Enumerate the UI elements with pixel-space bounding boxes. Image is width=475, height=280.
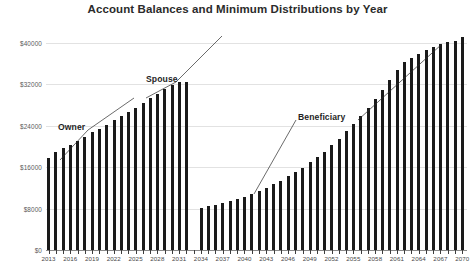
x-tick — [317, 250, 318, 254]
x-tick — [92, 250, 93, 254]
bar — [381, 90, 384, 250]
bar — [127, 112, 130, 250]
x-tick — [237, 250, 238, 254]
x-tick-label: 2061 — [390, 255, 404, 262]
x-tick — [150, 250, 151, 254]
x-tick — [85, 250, 86, 254]
bar — [410, 58, 413, 250]
x-tick-label: 2022 — [107, 255, 121, 262]
bar — [432, 47, 435, 250]
bar — [47, 158, 50, 250]
bar — [359, 116, 362, 250]
x-axis: 2013201620192022202520282031203420372040… — [46, 250, 467, 278]
bar — [374, 99, 377, 250]
x-tick-label: 2031 — [172, 255, 186, 262]
x-tick — [259, 250, 260, 254]
x-tick-label: 2058 — [368, 255, 382, 262]
bar — [54, 152, 57, 250]
bar — [323, 152, 326, 250]
bar — [309, 162, 312, 250]
x-tick — [78, 250, 79, 254]
plot-area: OwnerSpouseBeneficiary — [46, 22, 467, 250]
x-tick — [136, 250, 137, 254]
y-tick-label: $32000 — [20, 81, 42, 88]
x-tick — [339, 250, 340, 254]
bar — [105, 125, 108, 250]
x-tick — [107, 250, 108, 254]
y-tick-label: $8000 — [24, 205, 42, 212]
bar — [243, 197, 246, 250]
x-tick — [215, 250, 216, 254]
x-tick — [455, 250, 456, 254]
x-tick — [49, 250, 50, 254]
x-tick — [252, 250, 253, 254]
x-tick — [324, 250, 325, 254]
chart-title: Account Balances and Minimum Distributio… — [0, 3, 475, 15]
bar — [250, 194, 253, 250]
chart-container: Account Balances and Minimum Distributio… — [0, 0, 475, 280]
bar — [461, 37, 464, 250]
annotation-owner: Owner — [58, 122, 85, 132]
y-tick-label: $0 — [35, 247, 42, 254]
bar — [120, 116, 123, 250]
bar — [301, 168, 304, 250]
bar — [446, 42, 449, 250]
x-tick — [353, 250, 354, 254]
x-tick — [201, 250, 202, 254]
leader-line — [358, 44, 442, 120]
bar — [338, 139, 341, 250]
bar — [62, 148, 65, 250]
bar — [294, 172, 297, 250]
bar — [83, 137, 86, 250]
x-tick-label: 2037 — [216, 255, 230, 262]
x-tick — [303, 250, 304, 254]
x-tick-label: 2034 — [194, 255, 208, 262]
x-tick — [295, 250, 296, 254]
x-tick-label: 2040 — [237, 255, 251, 262]
x-tick — [165, 250, 166, 254]
bar — [265, 188, 268, 250]
x-tick-label: 2049 — [303, 255, 317, 262]
x-tick — [440, 250, 441, 254]
bar — [214, 205, 217, 250]
x-tick — [194, 250, 195, 254]
x-tick — [390, 250, 391, 254]
x-tick — [179, 250, 180, 254]
bar — [330, 145, 333, 250]
x-tick — [375, 250, 376, 254]
x-tick — [157, 250, 158, 254]
bar — [149, 98, 152, 250]
bar — [171, 85, 174, 250]
bar — [272, 184, 275, 250]
x-tick-label: 2064 — [412, 255, 426, 262]
x-tick — [70, 250, 71, 254]
bar — [221, 203, 224, 250]
x-tick-label: 2070 — [455, 255, 469, 262]
gridline — [46, 43, 467, 44]
bar — [134, 108, 137, 251]
annotation-spouse: Spouse — [146, 74, 178, 84]
bar — [200, 208, 203, 250]
x-tick — [121, 250, 122, 254]
bar — [156, 94, 159, 250]
x-tick — [143, 250, 144, 254]
bar — [388, 80, 391, 250]
x-tick-label: 2067 — [433, 255, 447, 262]
x-tick — [419, 250, 420, 254]
bar — [236, 199, 239, 250]
x-tick — [172, 250, 173, 254]
x-tick-label: 2019 — [85, 255, 99, 262]
x-tick — [223, 250, 224, 254]
x-tick-label: 2052 — [324, 255, 338, 262]
bar — [316, 157, 319, 250]
x-tick — [397, 250, 398, 254]
y-tick-label: $40000 — [20, 39, 42, 46]
x-tick — [114, 250, 115, 254]
x-tick — [230, 250, 231, 254]
bar — [425, 50, 428, 250]
x-tick — [462, 250, 463, 254]
bar — [258, 191, 261, 250]
bar — [367, 108, 370, 250]
bar — [185, 82, 188, 250]
bar — [113, 120, 116, 250]
